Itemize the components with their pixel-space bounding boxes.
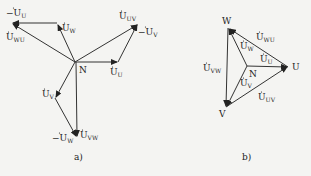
caption-a: a) bbox=[74, 152, 83, 162]
vertex-u: U bbox=[292, 62, 300, 72]
phasor-b-u-vw bbox=[226, 28, 228, 106]
label-b-u-uv: UUV bbox=[258, 92, 276, 103]
label-u-vw: UVW bbox=[80, 130, 99, 141]
vertex-v: V bbox=[218, 109, 226, 119]
label-u-w: UW bbox=[62, 23, 77, 34]
vertex-w: W bbox=[222, 16, 232, 26]
neutral-label-b: N bbox=[249, 69, 257, 79]
diagram-a: −UU UWU UW UUV −UV N UU UV −UW UVW bbox=[6, 7, 158, 162]
label-u-v: UV bbox=[42, 89, 55, 100]
diagram-b: W U V N UWU UW UU UVW UV UUV b bbox=[203, 16, 300, 162]
label-neg-u-v: −UV bbox=[138, 27, 158, 38]
phasor-diagrams: −UU UWU UW UUV −UV N UU UV −UW UVW bbox=[0, 0, 311, 176]
label-b-u-w: UW bbox=[240, 41, 255, 52]
neutral-label-a: N bbox=[79, 65, 87, 75]
label-b-u-wu: UWU bbox=[256, 32, 275, 43]
caption-b: b) bbox=[242, 152, 251, 162]
phasor-u-v bbox=[56, 62, 75, 97]
phasor-b-u-u bbox=[247, 66, 287, 67]
label-u-wu: UWU bbox=[6, 32, 25, 43]
label-b-u-v: UV bbox=[240, 78, 253, 89]
label-u-uv: UUV bbox=[119, 11, 137, 22]
label-b-u-vw: UVW bbox=[203, 63, 222, 74]
label-u-u: UU bbox=[110, 67, 123, 78]
phasor-u-vw bbox=[76, 62, 77, 136]
label-neg-u-u: −UU bbox=[6, 8, 26, 19]
phasor-neg-u-w bbox=[55, 98, 76, 136]
label-neg-u-w: −UW bbox=[52, 133, 74, 144]
